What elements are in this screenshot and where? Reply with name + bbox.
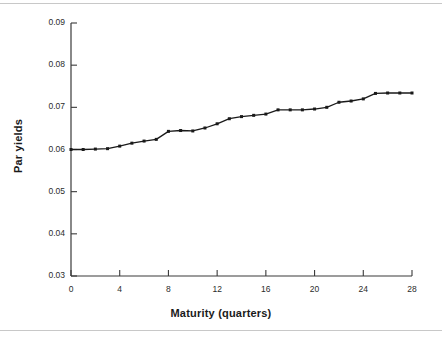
y-tick-label: 0.05 xyxy=(31,186,65,196)
y-axis-title: Par yields xyxy=(12,106,24,186)
x-tick-label: 8 xyxy=(156,284,180,294)
y-tick-label: 0.04 xyxy=(31,228,65,238)
x-axis-title: Maturity (quarters) xyxy=(0,307,442,319)
axis-ticks xyxy=(71,23,412,276)
x-tick-label: 16 xyxy=(254,284,278,294)
x-tick-label: 0 xyxy=(59,284,83,294)
y-tick-label: 0.03 xyxy=(31,270,65,280)
y-tick-label: 0.07 xyxy=(31,101,65,111)
y-tick-label: 0.06 xyxy=(31,144,65,154)
data-series-par-yields xyxy=(70,92,414,152)
chart-axes xyxy=(71,23,412,276)
x-tick-label: 28 xyxy=(400,284,424,294)
x-tick-label: 20 xyxy=(303,284,327,294)
x-tick-label: 24 xyxy=(351,284,375,294)
y-tick-label: 0.08 xyxy=(31,59,65,69)
chart-figure: 0.030.040.050.060.070.080.09 04812162024… xyxy=(0,0,442,341)
y-tick-label: 0.09 xyxy=(31,17,65,27)
x-tick-label: 12 xyxy=(205,284,229,294)
x-tick-label: 4 xyxy=(108,284,132,294)
